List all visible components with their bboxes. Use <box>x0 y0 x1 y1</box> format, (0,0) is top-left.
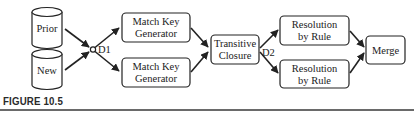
resolution-by-rule-top-node: Resolution by Rule <box>280 16 349 45</box>
edge-resolution-top-to-merge <box>350 31 364 47</box>
edge-transitive-to-resolution-top <box>260 30 278 48</box>
edge-prior-to-d1 <box>65 29 89 47</box>
new-label: New <box>37 65 57 76</box>
merge-node: Merge <box>366 36 405 64</box>
merge-label: Merge <box>372 45 400 56</box>
figure-caption: FIGURE 10.5 <box>3 95 63 107</box>
match-key-top-line2: Generator <box>135 28 177 39</box>
d1-label: D1 <box>98 44 111 55</box>
match-key-bottom-line1: Match Key <box>133 61 181 72</box>
entity-resolution-flow-diagram: Prior New D1 Match Key Generator Match K… <box>0 0 414 96</box>
transitive-closure-line2: Closure <box>219 50 252 61</box>
resolution-bottom-line1: Resolution <box>292 63 338 74</box>
resolution-top-line1: Resolution <box>292 19 338 30</box>
new-database-icon: New <box>32 50 62 90</box>
prior-database-icon: Prior <box>32 8 62 49</box>
match-key-bottom-line2: Generator <box>135 73 177 84</box>
caption-divider <box>0 109 414 111</box>
prior-label: Prior <box>37 23 59 34</box>
transitive-closure-node: Transitive Closure <box>211 35 259 64</box>
edge-match-key-top-to-transitive <box>191 28 208 47</box>
resolution-top-line2: by Rule <box>298 31 331 42</box>
match-key-top-line1: Match Key <box>133 16 181 27</box>
edge-resolution-bottom-to-merge <box>350 53 364 73</box>
d1-junction-icon <box>90 47 95 52</box>
edge-match-key-bottom-to-transitive <box>191 52 208 72</box>
match-key-generator-top-node: Match Key Generator <box>122 13 190 42</box>
transitive-closure-line1: Transitive <box>214 38 257 49</box>
resolution-bottom-line2: by Rule <box>298 75 331 86</box>
resolution-by-rule-bottom-node: Resolution by Rule <box>280 60 349 88</box>
match-key-generator-bottom-node: Match Key Generator <box>122 58 190 87</box>
edge-new-to-d1 <box>65 52 89 70</box>
